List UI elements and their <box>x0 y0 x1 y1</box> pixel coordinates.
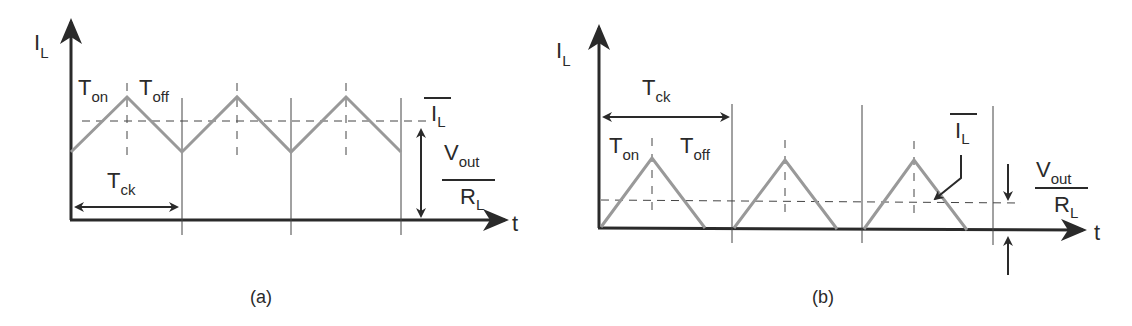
toff-label: Toff <box>139 75 170 105</box>
toff-label: Toff <box>680 133 711 163</box>
tck-label: Tck <box>107 168 136 198</box>
ton-label: Ton <box>609 133 639 163</box>
caption-a: (a) <box>250 287 272 307</box>
caption-b: (b) <box>812 287 834 307</box>
x-axis-label: t <box>512 211 518 236</box>
inductor-current-pulse <box>864 160 967 230</box>
inductor-current-pulse <box>601 158 705 228</box>
mean-current-label: IL <box>955 118 969 147</box>
y-axis-label: IL <box>556 38 570 69</box>
ratio-numerator: Vout <box>444 140 480 170</box>
panel-b: IL Tck Ton Toff IL Vout RL t (b) <box>556 28 1100 307</box>
x-axis <box>598 228 1083 230</box>
x-axis-label: t <box>1094 220 1100 245</box>
inductor-current-waveform <box>71 97 401 152</box>
ton-label: Ton <box>78 75 108 105</box>
inductor-current-diagram: IL Ton Toff Tck IL Vout RL t (a) <box>0 0 1132 326</box>
tck-label: Tck <box>642 75 671 105</box>
mean-current-label: IL <box>431 101 445 130</box>
mean-current-line <box>601 200 1021 203</box>
panel-a: IL Ton Toff Tck IL Vout RL t (a) <box>34 22 518 307</box>
ratio-denominator: RL <box>1054 192 1078 221</box>
ratio-denominator: RL <box>460 184 484 213</box>
ratio-numerator: Vout <box>1036 157 1072 187</box>
y-axis-label: IL <box>34 30 48 61</box>
